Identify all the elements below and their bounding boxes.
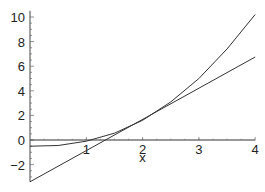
y-tick-label: −2 (10, 158, 25, 173)
x-tick-label: 4 (252, 142, 259, 157)
y-tick-label: 6 (18, 59, 25, 74)
y-tick-label: 0 (18, 133, 25, 148)
plot-area: −202468101234 x (0, 0, 265, 192)
axes: −202468101234 (10, 10, 259, 182)
y-tick-label: 2 (18, 108, 25, 123)
y-tick-label: 4 (18, 84, 25, 99)
y-tick-label: 8 (18, 35, 25, 50)
chart: −202468101234 x (0, 0, 265, 192)
x-axis-label: x (139, 150, 146, 165)
y-tick-label: 10 (11, 10, 25, 25)
x-tick-label: 3 (195, 142, 202, 157)
curve-line (30, 15, 255, 147)
